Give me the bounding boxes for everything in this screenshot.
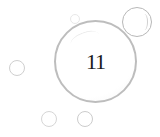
bottom-left-bubble-icon (41, 111, 57, 127)
bottom-right-bubble-icon (77, 111, 93, 127)
top-right-bubble-icon (122, 7, 152, 37)
top-small-bubble-icon (70, 14, 80, 24)
main-bubble: 11 (54, 20, 137, 103)
left-bubble-icon (9, 60, 25, 76)
bubble-highlight (141, 14, 148, 30)
bubble-number: 11 (86, 51, 105, 73)
